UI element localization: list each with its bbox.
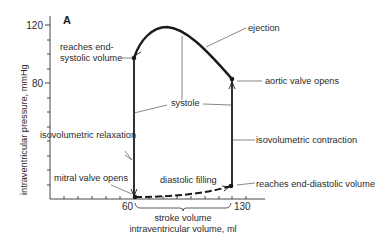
x-tick-130: 130: [234, 201, 251, 212]
pressure-volume-loop-diagram: 120 80 60 130 A intraventricular pressur…: [0, 0, 385, 243]
label-ejection: ejection: [248, 23, 280, 33]
panel-label: A: [63, 14, 71, 26]
label-stroke-volume: stroke volume: [154, 213, 211, 223]
mitral-valve-opens-point: [133, 195, 138, 200]
end-diastolic-point: [229, 184, 234, 189]
label-reaches-end-systolic-1: reaches end-: [60, 42, 114, 52]
y-axis: [45, 16, 50, 199]
y-tick-120: 120: [26, 20, 43, 31]
label-reaches-end-systolic-2: systolic volume: [60, 53, 122, 63]
label-diastolic-filling: diastolic filling: [160, 175, 217, 185]
end-systolic-point: [132, 56, 137, 61]
label-systole: systole: [171, 98, 200, 108]
x-axis-title: intraventricular volume, ml: [129, 224, 236, 234]
diastolic-filling-curve: [135, 186, 231, 197]
label-mitral-valve-opens: mitral valve opens: [54, 173, 128, 183]
label-aortic-valve-opens: aortic valve opens: [265, 76, 339, 86]
stroke-volume-brace: [135, 203, 231, 211]
aortic-valve-opens-point: [230, 77, 235, 82]
label-isovolumetric-contraction: isovolumetric contraction: [256, 135, 357, 145]
y-tick-80: 80: [32, 78, 44, 89]
ejection-curve: [134, 27, 232, 79]
x-tick-60: 60: [122, 201, 134, 212]
label-reaches-end-diastolic: reaches end-diastolic volume: [256, 179, 375, 189]
y-axis-title: intraventricular pressure, mmHg: [19, 64, 29, 195]
label-isovolumetric-relaxation: isovolumetric relaxation: [40, 130, 136, 140]
